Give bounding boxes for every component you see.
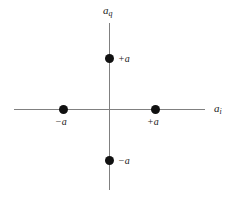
data-point-left-label: −a	[55, 117, 67, 127]
horizontal-axis-symbol: a	[214, 102, 220, 114]
data-point-bottom	[105, 156, 114, 165]
data-point-right	[151, 105, 160, 114]
vertical-axis-symbol: a	[103, 4, 109, 16]
data-point-right-label: +a	[147, 117, 159, 127]
horizontal-axis-label: ai	[214, 103, 222, 114]
vertical-axis-subscript: q	[109, 9, 113, 18]
data-point-left	[59, 105, 68, 114]
data-point-bottom-label: −a	[118, 156, 130, 166]
vertical-axis-label: aq	[103, 5, 113, 16]
horizontal-axis-subscript: i	[220, 107, 222, 116]
constellation-diagram: aq ai +a −a −a +a	[0, 0, 236, 198]
data-point-top-label: +a	[118, 54, 130, 64]
data-point-top	[105, 54, 114, 63]
